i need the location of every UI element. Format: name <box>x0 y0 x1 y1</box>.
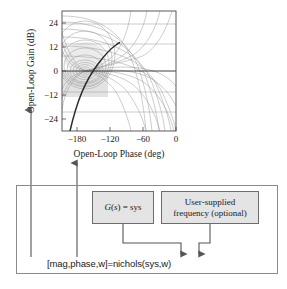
command-text: [mag,phase,w]=nichols(sys,w) <box>47 258 171 269</box>
nichols-command-figure: 24 12 0 −12 −24 −180 −120 −60 0 Open-Loo… <box>0 0 287 289</box>
nichols-chart <box>55 11 176 131</box>
y-axis-label: Open-Loop Gain (dB) <box>26 29 37 113</box>
callout-frequency: User-supplied frequency (optional) <box>161 191 259 224</box>
y-tick-24: 24 <box>49 18 59 28</box>
x-tick-neg60: −60 <box>136 134 151 144</box>
y-tick-12: 12 <box>49 42 58 52</box>
x-tick-0: 0 <box>174 134 179 144</box>
y-tick-0: 0 <box>54 66 59 76</box>
y-tick-neg24: −24 <box>44 114 59 124</box>
x-tick-neg180: −180 <box>68 134 87 144</box>
callout-sys: G(s) = sys <box>92 191 154 224</box>
callout-frequency-line1: User-supplied <box>185 197 235 207</box>
callout-frequency-text: User-supplied frequency (optional) <box>173 197 247 219</box>
x-tick-neg120: −120 <box>101 134 120 144</box>
y-tick-neg12: −12 <box>44 90 58 100</box>
callout-sys-text: G(s) = sys <box>104 202 141 213</box>
callout-frequency-line2: frequency (optional) <box>173 208 247 218</box>
x-axis-label: Open-Loop Phase (deg) <box>74 149 165 160</box>
